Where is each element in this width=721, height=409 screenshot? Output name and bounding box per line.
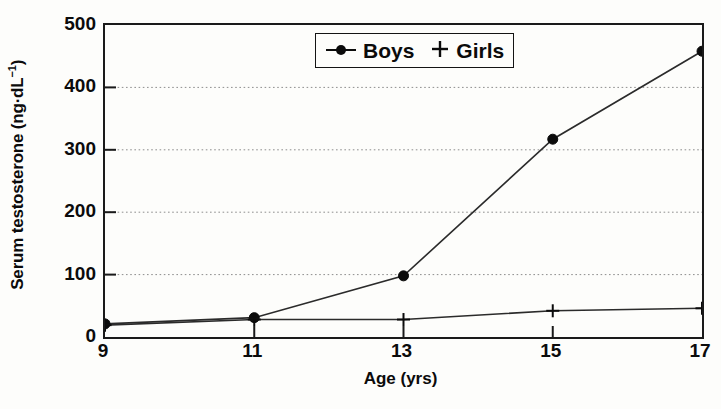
x-axis-title: Age (yrs) — [0, 369, 721, 389]
chart-legend: BoysGirls — [315, 33, 514, 68]
legend-entry-boys: Boys — [325, 40, 414, 61]
legend-marker-circle-icon — [325, 40, 357, 61]
data-point-boys — [399, 271, 409, 281]
y-axis-title-exponent: −1 — [6, 66, 18, 78]
y-axis-tick-label: 100 — [34, 263, 96, 282]
x-axis-tick-label: 11 — [242, 341, 262, 360]
data-point-boys — [697, 46, 702, 56]
data-point-boys — [548, 134, 558, 144]
y-axis-title: Serum testosterone (ng·dL−1) — [0, 0, 34, 350]
y-axis-tick-label: 300 — [34, 138, 96, 157]
x-axis-tick-labels: 911131517 — [0, 341, 721, 369]
legend-entry-girls: Girls — [430, 40, 504, 61]
y-axis-title-tail: ) — [8, 60, 27, 65]
y-axis-tick-label: 400 — [34, 76, 96, 95]
legend-label: Boys — [363, 40, 414, 61]
legend-label: Girls — [456, 40, 504, 61]
x-axis-tick-label: 17 — [689, 341, 710, 360]
plot-area — [103, 23, 704, 339]
series-boys — [105, 46, 702, 329]
series-line-boys — [105, 51, 702, 324]
x-axis-tick-label: 15 — [540, 341, 561, 360]
chart-figure: Serum testosterone (ng·dL−1) 01002003004… — [0, 0, 721, 409]
legend-marker-plus-icon — [430, 40, 450, 61]
y-axis-tick-label: 200 — [34, 201, 96, 220]
x-axis-tick-label: 9 — [98, 341, 109, 360]
plot-canvas — [105, 25, 702, 337]
y-axis-title-text: Serum testosterone (ng·dL — [8, 78, 27, 290]
x-axis-tick-label: 13 — [391, 341, 412, 360]
y-axis-tick-label: 500 — [34, 14, 96, 33]
